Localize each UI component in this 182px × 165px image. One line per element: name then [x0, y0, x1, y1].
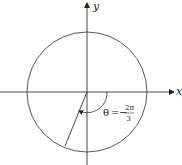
y-axis-label: y — [92, 0, 100, 13]
terminal-ray — [65, 92, 87, 146]
unit-circle-diagram: y x θ = − 2π 3 — [0, 0, 182, 165]
diagram-canvas: y x θ = − 2π 3 — [0, 0, 182, 165]
theta-symbol: θ — [103, 107, 109, 118]
fraction-denominator: 3 — [127, 115, 131, 123]
x-axis-label: x — [176, 85, 182, 98]
fraction-numerator: 2π — [125, 104, 134, 112]
